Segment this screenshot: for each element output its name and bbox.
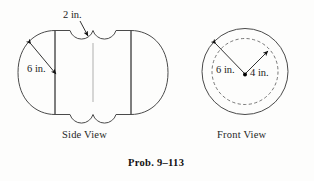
figure-svg: 2 in. 6 in. Side View 6 in. 4 in. Front … xyxy=(0,0,314,181)
figure-container: 2 in. 6 in. Side View 6 in. 4 in. Front … xyxy=(0,0,314,181)
front-view-label: Front View xyxy=(217,129,267,140)
front-view-outer-circle xyxy=(202,29,288,115)
notch-dimension-leader xyxy=(80,21,88,36)
front-view-group: 6 in. 4 in. Front View xyxy=(202,29,288,141)
front-view-inner-radius-dimension: 4 in. xyxy=(250,67,269,78)
side-view-notch-dimension: 2 in. xyxy=(63,9,82,20)
side-view-right-cap xyxy=(131,31,168,115)
problem-caption: Prob. 9–113 xyxy=(128,157,184,168)
front-view-outer-radius-dimension: 6 in. xyxy=(216,64,235,75)
front-view-center-dot xyxy=(243,73,247,77)
side-view-radius-dimension: 6 in. xyxy=(27,63,46,74)
side-view-group: 2 in. 6 in. Side View xyxy=(18,9,168,140)
side-view-label: Side View xyxy=(62,129,107,140)
